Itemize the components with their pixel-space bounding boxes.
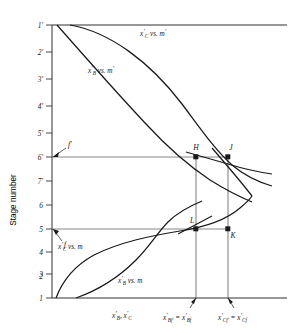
curve-label-xB-vs-mprime: x′B vs. m′: [87, 64, 115, 76]
y-axis-title: Stage number: [9, 174, 18, 226]
y-tick-6: 6: [39, 201, 43, 210]
y-tick-3-prime: 3': [37, 75, 44, 84]
y-axis-ticks: [46, 25, 52, 298]
y-tick-5: 5: [39, 225, 43, 234]
curve-xB-vs-mprime: [57, 25, 252, 202]
x-axis-label-Bf: x′Bf′ = x′Bf: [162, 311, 193, 323]
y-tick-6-prime: 6': [38, 153, 44, 162]
feed-arrowheads: [53, 152, 59, 235]
point-marker-J: [225, 154, 230, 159]
y-tick-2-visible: 2: [39, 272, 43, 281]
marked-points: [193, 154, 230, 231]
y-tick-7-prime: 7': [38, 177, 44, 186]
point-label-K: K: [229, 231, 236, 240]
arrowhead-Cf: [228, 298, 233, 304]
point-marker-L: [193, 226, 198, 231]
stage-diagram-svg: 1' 2' 3' 4' 5' 6' 7' 6 5 4 3 2 1 2 Stage…: [0, 0, 295, 335]
svg-text:x′Cf′ = x′Cf: x′Cf′ = x′Cf: [217, 311, 248, 323]
y-tick-2-prime: 2': [38, 48, 44, 57]
svg-text:x′C vs. m: x′C vs. m: [57, 240, 83, 252]
arrowhead-Bf: [191, 298, 196, 304]
y-tick-1: 1: [39, 294, 43, 303]
annotation-f-prime: f': [68, 141, 72, 149]
y-tick-1-prime: 1': [38, 21, 44, 30]
point-label-J: J: [229, 143, 233, 152]
point-label-L: L: [189, 216, 194, 225]
x-axis-label-composition: x′B, x′C: [111, 309, 132, 321]
curve-label-xC-vs-m: x′C vs. m: [57, 240, 83, 252]
x-axis-label-Cf: x′Cf′ = x′Cf: [217, 311, 248, 323]
y-tick-4: 4: [39, 248, 43, 257]
tie-lines-vertical: [196, 157, 228, 298]
svg-text:x′B vs. m′: x′B vs. m′: [87, 64, 115, 76]
curve-xC-vs-mprime-tail: [212, 148, 252, 196]
svg-text:x′B vs. m: x′B vs. m: [117, 274, 143, 286]
curve-label-xC-vs-mprime: x′C vs. m′: [139, 27, 167, 39]
svg-text:x′B, x′C: x′B, x′C: [111, 309, 132, 321]
chart-figure: 1' 2' 3' 4' 5' 6' 7' 6 5 4 3 2 1 2 Stage…: [0, 0, 295, 335]
curve-xC-vs-mprime: [70, 25, 272, 186]
curve-xC-vs-m: [56, 196, 252, 298]
y-tick-5-prime: 5': [38, 129, 44, 138]
svg-text:x′Bf′ = x′Bf: x′Bf′ = x′Bf: [162, 311, 193, 323]
point-marker-H: [193, 154, 198, 159]
curve-label-xB-vs-m: x′B vs. m: [117, 274, 143, 286]
svg-text:x′C vs. m′: x′C vs. m′: [139, 27, 167, 39]
y-tick-4-prime: 4': [38, 102, 44, 111]
tie-lines-horizontal: [52, 157, 228, 229]
feed-leader-lines: [53, 148, 66, 241]
point-label-H: H: [192, 143, 199, 152]
